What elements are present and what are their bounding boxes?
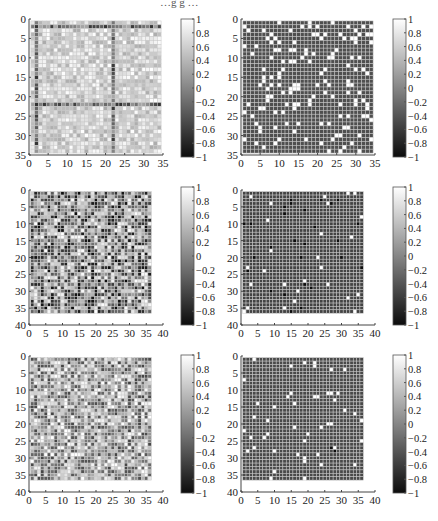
heatmap-cell — [65, 48, 69, 52]
heatmap-cell — [84, 215, 87, 218]
heatmap-cell — [269, 290, 272, 293]
heatmap-cell — [88, 75, 92, 79]
heatmap-cell — [98, 222, 101, 225]
heatmap-cell — [94, 229, 97, 232]
heatmap-cell — [357, 395, 360, 398]
heatmap-cell — [357, 205, 360, 208]
heatmap-cell — [293, 436, 296, 439]
heatmap-cell — [100, 106, 104, 110]
heatmap-cell — [78, 310, 81, 313]
heatmap-cell — [243, 232, 246, 235]
heatmap-cell — [41, 290, 44, 293]
heatmap-cell — [44, 310, 47, 313]
heatmap-cell — [134, 106, 138, 110]
heatmap-cell — [253, 212, 256, 215]
heatmap-cell — [246, 269, 249, 272]
heatmap-cell — [336, 443, 339, 446]
heatmap-cell — [42, 95, 46, 99]
heatmap-cell — [31, 443, 34, 446]
heatmap-cell — [369, 110, 373, 114]
heatmap-cell — [283, 293, 286, 296]
heatmap-cell — [124, 463, 127, 466]
heatmap-cell — [343, 249, 346, 252]
heatmap-cell — [300, 134, 304, 138]
heatmap-cell — [253, 453, 256, 456]
colorbar-tick-label: 0.6 — [408, 42, 421, 53]
heatmap-cell — [65, 114, 69, 118]
heatmap-cell — [138, 225, 141, 228]
heatmap-cell — [336, 306, 339, 309]
heatmap-cell — [365, 68, 369, 72]
heatmap-cell — [51, 392, 54, 395]
heatmap-cell — [108, 382, 111, 385]
heatmap-cell — [335, 64, 339, 68]
heatmap-cell — [256, 310, 259, 313]
heatmap-cell — [146, 126, 150, 130]
heatmap-cell — [347, 192, 350, 195]
heatmap-cell — [330, 219, 333, 222]
heatmap-cell — [54, 198, 57, 201]
heatmap-cell — [131, 266, 134, 269]
heatmap-cell — [266, 242, 269, 245]
heatmap-cell — [269, 279, 272, 282]
heatmap-cell — [62, 149, 66, 153]
heatmap-cell — [74, 303, 77, 306]
heatmap-cell — [326, 263, 329, 266]
heatmap-cell — [326, 296, 329, 299]
heatmap-cell — [148, 419, 151, 422]
heatmap-cell — [243, 202, 246, 205]
heatmap-cell — [320, 300, 323, 303]
heatmap-cell — [319, 145, 323, 149]
heatmap-cell — [94, 269, 97, 272]
heatmap-cell — [306, 209, 309, 212]
heatmap-cell — [258, 25, 262, 29]
heatmap-cell — [96, 106, 100, 110]
heatmap-cell — [114, 236, 117, 239]
heatmap-cell — [108, 405, 111, 408]
heatmap-cell — [256, 405, 259, 408]
heatmap-cell — [353, 385, 356, 388]
heatmap-cell — [259, 439, 262, 442]
heatmap-cell — [243, 68, 247, 72]
heatmap-cell — [104, 198, 107, 201]
heatmap-cell — [273, 371, 276, 374]
heatmap-cell — [263, 436, 266, 439]
heatmap-cell — [141, 446, 144, 449]
heatmap-cell — [285, 87, 289, 91]
heatmap-cell — [256, 385, 259, 388]
heatmap-cell — [157, 149, 161, 153]
heatmap-cell — [258, 134, 262, 138]
heatmap-cell — [336, 456, 339, 459]
heatmap-cell — [142, 106, 146, 110]
heatmap-cell — [81, 118, 85, 122]
heatmap-cell — [84, 256, 87, 259]
heatmap-cell — [148, 263, 151, 266]
heatmap-cell — [118, 399, 121, 402]
heatmap-cell — [62, 91, 66, 95]
heatmap-cell — [343, 239, 346, 242]
heatmap-cell — [289, 141, 293, 145]
heatmap-cell — [35, 25, 39, 29]
heatmap-cell — [249, 443, 252, 446]
heatmap-cell — [313, 225, 316, 228]
heatmap-cell — [286, 453, 289, 456]
heatmap-cell — [290, 422, 293, 425]
heatmap-cell — [135, 192, 138, 195]
heatmap-cell — [54, 209, 57, 212]
heatmap-cell — [104, 412, 107, 415]
heatmap-cell — [64, 252, 67, 255]
heatmap-cell — [61, 439, 64, 442]
heatmap-cell — [31, 361, 34, 364]
heatmap-cell — [92, 106, 96, 110]
heatmap-cell — [360, 205, 363, 208]
heatmap-cell — [118, 205, 121, 208]
heatmap-cell — [313, 303, 316, 306]
heatmap-cell — [131, 198, 134, 201]
heatmap-cell — [121, 470, 124, 473]
heatmap-cell — [283, 269, 286, 272]
heatmap-cell — [37, 246, 40, 249]
heatmap-cell — [273, 456, 276, 459]
heatmap-cell — [74, 242, 77, 245]
heatmap-cell — [141, 256, 144, 259]
heatmap-cell — [297, 138, 301, 142]
